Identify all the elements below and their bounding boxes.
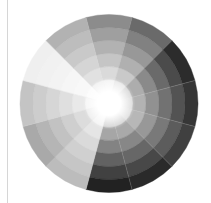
- sector-6-ring-2: [96, 139, 122, 153]
- sector-3-ring-3: [157, 87, 172, 120]
- center-disc: [98, 93, 120, 115]
- sector-6-ring-4: [89, 164, 128, 179]
- sector-6-ring-3: [93, 152, 126, 167]
- sector-0-ring-4: [89, 28, 128, 43]
- sector-3-ring-2: [145, 91, 159, 117]
- sector-0-ring-3: [93, 40, 126, 55]
- sector-9-ring-4: [33, 84, 48, 123]
- wheel-sectors: [20, 15, 198, 193]
- sector-3-ring-4: [170, 84, 185, 123]
- sector-9-ring-3: [46, 87, 61, 120]
- grayscale-wheel: [0, 0, 211, 203]
- sector-0-ring-2: [96, 54, 122, 68]
- sector-9-ring-2: [59, 91, 73, 117]
